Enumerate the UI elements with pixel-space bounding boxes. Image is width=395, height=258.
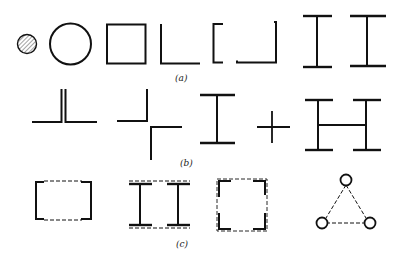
solid-round-bar-icon [18, 35, 37, 54]
row-c: (c) [36, 175, 376, 250]
structural-sections-diagram: (a) (b) [0, 0, 395, 258]
row-b: (b) [32, 89, 381, 168]
i-beam-icon [303, 16, 332, 67]
built-up-channel-icon [214, 22, 277, 63]
i-beam-icon [350, 16, 386, 66]
laced-channel-pair-icon [36, 181, 91, 220]
row-c-label: (c) [176, 239, 189, 249]
triangular-laced-tubes-icon [317, 175, 376, 229]
plus-icon [257, 111, 290, 143]
offset-angle-pair-icon [117, 89, 182, 160]
h-built-up-section-icon [305, 100, 381, 150]
laced-twin-i-beams-icon [129, 181, 190, 228]
hollow-tube-icon [50, 24, 91, 65]
i-section-icon [200, 95, 235, 143]
laced-four-angles-icon [217, 179, 267, 231]
row-a: (a) [18, 16, 387, 83]
double-angle-tee-icon [32, 89, 97, 122]
square-tube-icon [107, 25, 146, 64]
row-b-label: (b) [180, 158, 193, 168]
angle-section-icon [161, 24, 200, 64]
row-a-label: (a) [175, 73, 188, 83]
